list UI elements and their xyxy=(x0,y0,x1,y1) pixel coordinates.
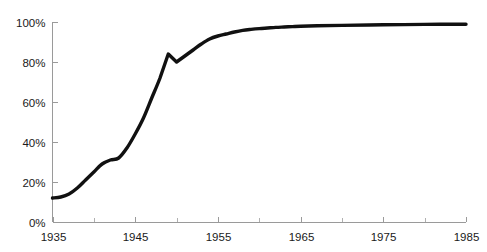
y-tick-label: 80% xyxy=(22,57,45,69)
x-tick-label: 1945 xyxy=(123,231,149,243)
y-axis-ticks xyxy=(53,23,58,223)
y-axis: 0%20%40%60%80%100% xyxy=(16,17,57,229)
x-tick-label: 1985 xyxy=(454,231,480,243)
data-series-line xyxy=(53,24,467,198)
x-tick-label: 1955 xyxy=(206,231,232,243)
line-chart: 0%20%40%60%80%100% 193519451955196519751… xyxy=(0,0,487,252)
x-axis-minor-ticks xyxy=(95,218,426,222)
x-axis-labels: 193519451955196519751985 xyxy=(41,231,480,243)
y-tick-label: 20% xyxy=(22,177,45,189)
x-axis: 193519451955196519751985 xyxy=(41,217,480,243)
x-tick-label: 1935 xyxy=(41,231,67,243)
x-tick-label: 1965 xyxy=(289,231,315,243)
y-tick-label: 60% xyxy=(22,97,45,109)
y-tick-label: 0% xyxy=(29,217,46,229)
y-axis-labels: 0%20%40%60%80%100% xyxy=(16,17,45,229)
y-tick-label: 40% xyxy=(22,137,45,149)
x-tick-label: 1975 xyxy=(371,231,397,243)
chart-container: 0%20%40%60%80%100% 193519451955196519751… xyxy=(0,0,487,252)
y-tick-label: 100% xyxy=(16,17,45,29)
